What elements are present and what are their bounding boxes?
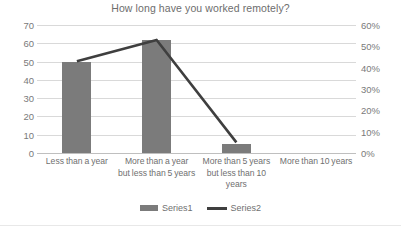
- y-axis-right-tick: 40%: [361, 62, 401, 73]
- x-axis-category-label: More than a yearbut less than 5 years: [113, 156, 201, 179]
- legend-entry[interactable]: Series2: [207, 203, 262, 213]
- x-axis-category-line: years: [193, 179, 281, 191]
- y-axis-right-tick: 60%: [361, 20, 401, 31]
- y-axis-left-tick: 30: [2, 93, 34, 104]
- y-axis-left-tick: 20: [2, 111, 34, 122]
- y-axis-left-tick: 50: [2, 56, 34, 67]
- legend-line-swatch-icon: [207, 207, 227, 210]
- y-axis-left-tick: 0: [2, 148, 34, 159]
- legend-label: Series1: [162, 203, 193, 213]
- y-axis-left-tick: 40: [2, 74, 34, 85]
- x-axis-category-line: Less than a year: [33, 156, 121, 168]
- y-axis-left-tick: 60: [2, 38, 34, 49]
- x-axis-category-line: More than 10 years: [272, 156, 360, 168]
- plot-area: [37, 25, 356, 153]
- x-axis-category-line: but less than 5 years: [113, 168, 201, 180]
- y-axis-left-tick: 70: [2, 20, 34, 31]
- x-axis-category-line: More than 5 years: [193, 156, 281, 168]
- x-axis-category-label: More than 10 years: [272, 156, 360, 168]
- y-axis-right-tick: 50%: [361, 41, 401, 52]
- y-axis-left-tick: 10: [2, 129, 34, 140]
- line-path: [77, 40, 237, 142]
- y-axis-right-tick: 30%: [361, 84, 401, 95]
- y-axis-left: 706050403020100: [0, 25, 34, 153]
- chart-legend: Series1Series2: [0, 203, 401, 213]
- chart-title: How long have you worked remotely?: [0, 2, 401, 14]
- x-axis-category-line: More than a year: [113, 156, 201, 168]
- line-series-series2: [37, 25, 356, 153]
- x-axis-category-labels: Less than a yearMore than a yearbut less…: [37, 156, 356, 202]
- y-axis-right-tick: 20%: [361, 105, 401, 116]
- legend-bar-swatch-icon: [140, 205, 158, 211]
- x-axis-category-line: but less than 10: [193, 168, 281, 180]
- y-axis-right-tick: 0%: [361, 148, 401, 159]
- y-axis-right: 60%50%40%30%20%10%0%: [361, 25, 401, 153]
- x-axis-category-label: Less than a year: [33, 156, 121, 168]
- chart-container: How long have you worked remotely? 70605…: [0, 0, 401, 226]
- y-axis-right-tick: 10%: [361, 126, 401, 137]
- x-axis-line: [37, 153, 356, 154]
- legend-entry[interactable]: Series1: [140, 203, 193, 213]
- legend-label: Series2: [231, 203, 262, 213]
- x-axis-category-label: More than 5 yearsbut less than 10years: [193, 156, 281, 191]
